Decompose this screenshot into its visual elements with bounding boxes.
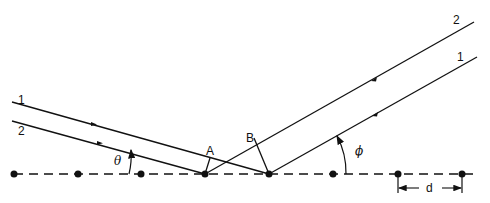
phi-label: ϕ <box>355 144 363 158</box>
outgoing-label-1: 1 <box>457 50 464 64</box>
outgoing-label-2: 2 <box>453 13 460 27</box>
incoming-beam-1 <box>12 102 269 174</box>
point-A-label: A <box>206 144 214 158</box>
phi-arc <box>337 136 346 174</box>
spacing-label: d <box>426 181 433 195</box>
point-B-label: B <box>246 131 254 145</box>
arrow-icon <box>97 141 103 145</box>
theta-label: θ <box>114 154 122 168</box>
path-difference-B <box>254 138 269 174</box>
outgoing-beam-2 <box>205 22 474 174</box>
diffraction-diagram: 1 2 2 1 A B θ ϕ d <box>0 0 490 203</box>
incoming-label-1: 1 <box>18 93 25 107</box>
atoms <box>11 171 466 178</box>
arrow-icon <box>372 112 378 117</box>
incoming-label-2: 2 <box>18 124 25 138</box>
